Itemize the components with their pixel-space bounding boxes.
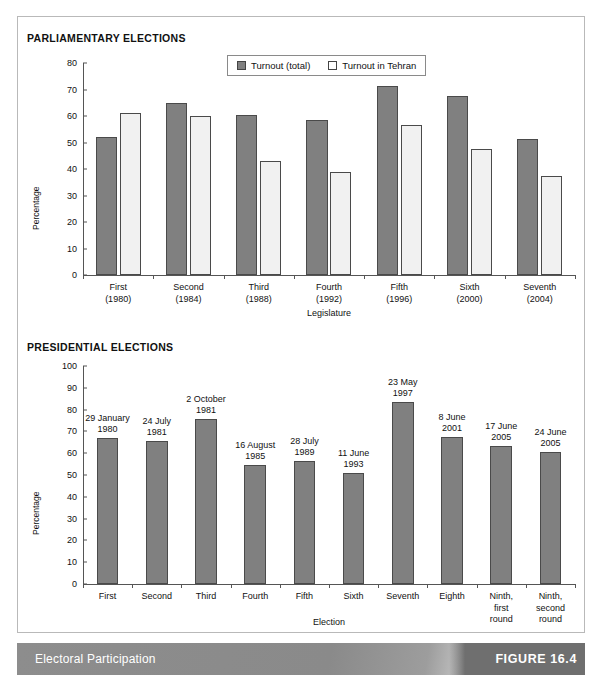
x-tick-mark	[575, 584, 576, 588]
annotation-line: 2 October	[173, 394, 238, 405]
bar-turnout-total	[377, 86, 398, 275]
y-tick-label: 30	[67, 191, 77, 201]
y-tick-label: 20	[67, 535, 77, 545]
x-category-label: Second(1984)	[153, 282, 223, 305]
x-category-line: Eighth	[427, 591, 476, 603]
x-category-line: (1984)	[153, 294, 223, 306]
x-axis-label: Election	[83, 617, 575, 627]
x-tick-mark	[181, 584, 182, 588]
x-category-line: Seventh	[505, 282, 575, 294]
y-tick-label: 0	[72, 579, 77, 589]
y-tick-mark	[83, 248, 87, 249]
x-category-line: (1992)	[294, 294, 364, 306]
bar-turnout	[392, 402, 414, 584]
x-category-label: Fourth(1992)	[294, 282, 364, 305]
x-category-line: Ninth,	[526, 591, 575, 603]
annotation-line: 1997	[370, 388, 435, 399]
x-category-line: Fifth	[364, 282, 434, 294]
y-tick-label: 0	[72, 270, 77, 280]
x-category-line: Second	[153, 282, 223, 294]
y-tick-label: 60	[67, 111, 77, 121]
annotation-line: 28 July	[272, 436, 337, 447]
parliamentary-y-axis-label: Percentage	[31, 187, 41, 230]
annotation-line: 11 June	[321, 448, 386, 459]
bar-turnout-tehran	[330, 172, 351, 275]
bar-group: 28 July1989	[280, 366, 329, 584]
x-category-label: Fourth	[231, 591, 280, 603]
y-tick-mark	[83, 431, 87, 432]
bar-group: 23 May1997	[378, 366, 427, 584]
x-tick-mark	[434, 275, 435, 279]
figure-page: PARLIAMENTARY ELECTIONS Percentage 01020…	[0, 0, 607, 681]
y-tick-label: 90	[67, 383, 77, 393]
bar-turnout	[294, 461, 316, 584]
x-tick-mark	[329, 584, 330, 588]
y-tick-label: 60	[67, 448, 77, 458]
figure-footer: Electoral Participation FIGURE 16.4	[17, 643, 585, 675]
chart-legend: Turnout (total) Turnout in Tehran	[227, 55, 426, 76]
y-tick-mark	[83, 387, 87, 388]
x-category-line: second	[526, 603, 575, 615]
x-tick-mark	[153, 275, 154, 279]
bar-turnout	[97, 438, 119, 584]
x-tick-mark	[224, 275, 225, 279]
legend-item-tehran: Turnout in Tehran	[328, 60, 416, 71]
presidential-y-ticks: 0102030405060708090100	[43, 360, 83, 604]
bar-group	[434, 63, 504, 275]
y-tick-mark	[83, 63, 87, 64]
y-tick-label: 20	[67, 217, 77, 227]
x-category-line: Sixth	[434, 282, 504, 294]
x-tick-mark	[575, 275, 576, 279]
y-tick-label: 80	[67, 58, 77, 68]
x-category-line: Second	[132, 591, 181, 603]
y-tick-mark	[83, 453, 87, 454]
annotation-line: 1981	[173, 405, 238, 416]
bar-date-annotation: 23 May1997	[370, 377, 435, 399]
x-category-label: Fifth(1996)	[364, 282, 434, 305]
annotation-line: 1993	[321, 459, 386, 470]
y-tick-label: 50	[67, 470, 77, 480]
bar-date-annotation: 24 July1981	[124, 416, 189, 438]
annotation-line: 2005	[518, 438, 583, 449]
presidential-y-axis-label: Percentage	[31, 492, 41, 535]
y-tick-label: 30	[67, 514, 77, 524]
bar-date-annotation: 24 June2005	[518, 427, 583, 449]
x-category-label: Seventh	[378, 591, 427, 603]
x-category-line: First	[83, 282, 153, 294]
x-category-label: Fifth	[280, 591, 329, 603]
x-category-line: Fourth	[231, 591, 280, 603]
annotation-line: 23 May	[370, 377, 435, 388]
y-tick-mark	[83, 562, 87, 563]
bar-group: 24 June2005	[526, 366, 575, 584]
legend-swatch-total-icon	[237, 61, 246, 70]
x-tick-mark	[477, 584, 478, 588]
x-category-line: First	[83, 591, 132, 603]
bar-turnout-tehran	[471, 149, 492, 275]
y-tick-label: 100	[62, 361, 77, 371]
parliamentary-section-title: PARLIAMENTARY ELECTIONS	[27, 32, 186, 44]
x-tick-mark	[132, 584, 133, 588]
x-category-label: Seventh(2004)	[505, 282, 575, 305]
bar-turnout-total	[96, 137, 117, 275]
x-category-line: Third	[224, 282, 294, 294]
y-tick-label: 70	[67, 85, 77, 95]
x-tick-mark	[294, 275, 295, 279]
y-tick-label: 50	[67, 138, 77, 148]
x-tick-mark	[280, 584, 281, 588]
bar-turnout-total	[517, 139, 538, 275]
parliamentary-x-axis	[83, 275, 575, 276]
annotation-line: 24 June	[518, 427, 583, 438]
bar-turnout	[441, 437, 463, 584]
bar-group	[224, 63, 294, 275]
x-category-line: (1996)	[364, 294, 434, 306]
x-category-line: (2000)	[434, 294, 504, 306]
bar-turnout-tehran	[120, 113, 141, 275]
bar-turnout	[490, 446, 512, 584]
x-tick-mark	[83, 584, 84, 588]
y-tick-mark	[83, 496, 87, 497]
legend-swatch-tehran-icon	[328, 61, 337, 70]
x-tick-mark	[231, 584, 232, 588]
x-category-label: Second	[132, 591, 181, 603]
bar-date-annotation: 11 June1993	[321, 448, 386, 470]
presidential-section-title: PRESIDENTIAL ELECTIONS	[27, 341, 173, 353]
